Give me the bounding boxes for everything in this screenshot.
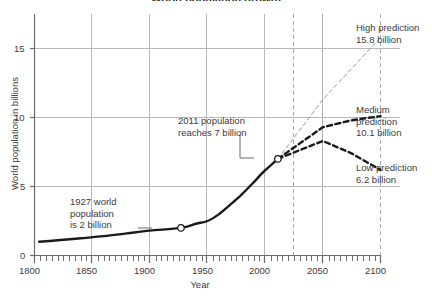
x-tick-label-1900: 1900 [134,265,155,276]
data-marker-2011 [275,156,281,162]
data-point-markers [178,156,281,231]
data-marker-1927 [178,225,184,231]
annotation-2011-population: 2011 population reaches 7 billion [178,115,247,138]
label-low-prediction: Low prediction 6.2 billion [356,162,417,185]
x-tick-label-2000: 2000 [249,265,270,276]
label-medium-prediction: Medium prediction 10.1 billion [356,104,401,139]
x-tick-label-2050: 2050 [307,265,328,276]
y-axis-title: World population in billions [9,74,20,194]
annotation-1927-population: 1927 world population is 2 billion [70,196,116,231]
population-growth-chart: World population growth [0,0,432,296]
x-tick-label-2100: 2100 [365,265,386,276]
y-tick-label-5: 5 [20,181,25,192]
x-axis-title: Year [0,279,400,290]
y-tick-label-0: 0 [20,250,25,261]
x-tick-label-1800: 1800 [19,265,40,276]
label-high-prediction: High prediction 15.8 billion [356,22,419,45]
y-tick-label-15: 15 [14,43,25,54]
y-ticks [30,49,34,256]
leader-2011 [240,135,254,158]
annotation-leaders [138,135,254,228]
x-tick-label-1850: 1850 [76,265,97,276]
x-tick-label-1950: 1950 [192,265,213,276]
